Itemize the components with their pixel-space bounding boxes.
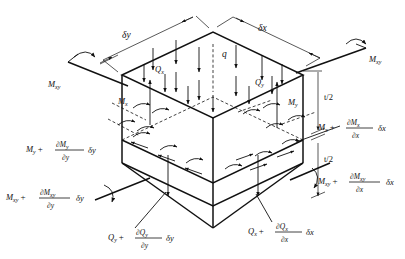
svg-text:∂Mx: ∂Mx xyxy=(347,118,360,128)
moment-label-mxy-left: Mxy xyxy=(47,79,61,90)
shear-label-qy-near: Qy xyxy=(255,77,264,88)
thickness-label-top: t/2 xyxy=(324,92,333,102)
svg-text:∂y: ∂y xyxy=(47,201,55,210)
label-mx-increment: Mx+ ∂Mx ∂x δx xyxy=(296,118,386,142)
svg-text:∂y: ∂y xyxy=(141,241,149,250)
svg-text:δx: δx xyxy=(378,123,386,133)
svg-text:Mx+: Mx+ xyxy=(317,122,335,133)
svg-text:δy: δy xyxy=(88,145,96,155)
load-label-q: q xyxy=(222,49,227,59)
svg-text:My+: My+ xyxy=(25,144,43,155)
cube-vertical-edges-upper xyxy=(122,75,303,183)
moment-axis-mxy-right xyxy=(296,39,366,73)
svg-text:δy: δy xyxy=(76,193,84,203)
moment-curls-mx-near xyxy=(108,103,169,136)
moment-label-mxy-right: Mxy xyxy=(368,54,382,65)
dimension-label-delta-x: δx xyxy=(258,23,267,33)
label-mxy-increment-x: Mxy+ ∂Mxy ∂x δx xyxy=(317,172,394,194)
svg-text:δx: δx xyxy=(306,227,314,237)
label-my-increment: My+ ∂My ∂y δy xyxy=(25,140,96,162)
moment-axis-mxy-left xyxy=(68,52,128,86)
svg-text:∂x: ∂x xyxy=(352,131,360,140)
thickness-label-bottom: t/2 xyxy=(324,154,333,164)
svg-text:∂Qx: ∂Qx xyxy=(276,222,288,232)
svg-text:∂My: ∂My xyxy=(56,140,69,150)
svg-text:∂x: ∂x xyxy=(281,235,289,244)
label-mxy-increment-y: Mxy+ ∂Mxy ∂y δy xyxy=(5,188,84,210)
svg-text:Qy+: Qy+ xyxy=(108,232,124,243)
shear-label-qx-near: Qx xyxy=(155,64,164,75)
svg-text:Qx+: Qx+ xyxy=(248,226,264,237)
moment-label-mx-near: Mx xyxy=(117,96,128,107)
svg-text:Mxy+: Mxy+ xyxy=(317,176,338,187)
distributed-load-arrows xyxy=(144,40,282,112)
svg-text:∂Mxy: ∂Mxy xyxy=(350,172,366,182)
label-qx-increment: Qx+ ∂Qx ∂x δx xyxy=(248,194,314,244)
svg-text:∂Qy: ∂Qy xyxy=(136,228,148,238)
moment-axis-mxy-bottom-left xyxy=(95,178,150,202)
svg-text:∂y: ∂y xyxy=(62,153,70,162)
moment-label-my-near: My xyxy=(287,97,298,108)
svg-text:∂x: ∂x xyxy=(356,185,364,194)
svg-text:δx: δx xyxy=(386,177,394,187)
diagram-canvas: δy δx q Qx Qy xyxy=(0,0,405,259)
dimension-label-delta-y: δy xyxy=(122,30,131,40)
svg-text:∂Mxy: ∂Mxy xyxy=(40,188,56,198)
svg-text:δy: δy xyxy=(166,233,174,243)
plate-element-diagram: δy δx q Qx Qy xyxy=(0,0,405,259)
svg-text:Mxy+: Mxy+ xyxy=(5,192,26,203)
label-qy-increment: Qy+ ∂Qy ∂y δy xyxy=(108,192,174,250)
